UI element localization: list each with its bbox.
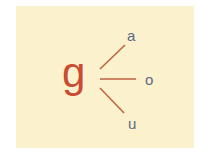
branch-line-u <box>100 88 124 113</box>
branch-line-a <box>100 45 125 69</box>
leaf-letter-o: o <box>145 72 153 87</box>
branch-lines <box>0 0 205 155</box>
root-letter: g <box>62 52 85 94</box>
leaf-letter-a: a <box>127 28 135 43</box>
leaf-letter-u: u <box>128 116 136 131</box>
